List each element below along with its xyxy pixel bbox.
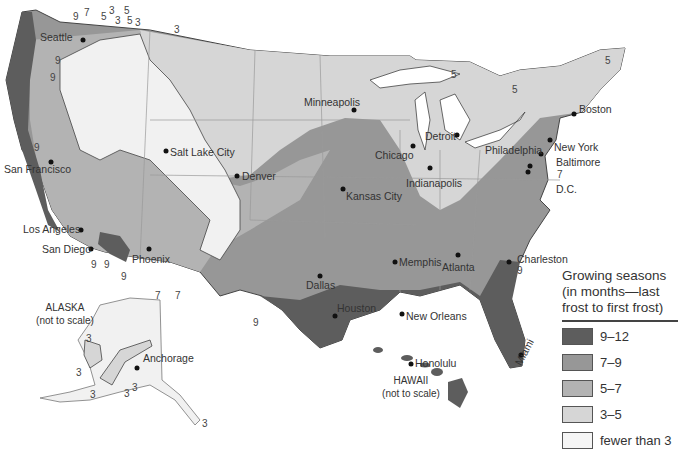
city-label-chicago: Chicago (375, 150, 414, 161)
legend-label: 5–7 (600, 381, 622, 396)
contour-label: 7 (557, 170, 563, 180)
alaska-title: ALASKA (not to scale) (30, 302, 100, 327)
contour-label: 9 (253, 318, 259, 328)
city-label-indianapolis: Indianapolis (406, 178, 462, 189)
contour-label: 9 (517, 266, 523, 276)
contour-label: 3 (135, 18, 141, 28)
contour-label: 7 (84, 8, 90, 18)
city-label-phoenix: Phoenix (132, 254, 170, 265)
contour-label: 3 (115, 16, 121, 26)
contour-label: 5 (101, 12, 107, 22)
contour-label: 5 (512, 85, 518, 95)
hawaii-note-text: (not to scale) (376, 388, 446, 401)
city-label-detroit: Detroit (425, 131, 456, 142)
contour-label: 3 (124, 389, 130, 399)
alaska-note-text: (not to scale) (30, 315, 100, 328)
contour-label: 5 (127, 16, 133, 26)
contour-label: 5 (605, 56, 611, 66)
contour-label: 9 (104, 260, 110, 270)
city-label-seattle: Seattle (40, 32, 73, 43)
contour-label: 9 (121, 272, 127, 282)
contour-label: 3 (132, 383, 138, 393)
city-label-dallas: Dallas (306, 280, 335, 291)
contour-label: 3 (174, 25, 180, 35)
city-label-new-orleans: New Orleans (406, 311, 467, 322)
contour-label: 3 (109, 6, 115, 16)
city-label-san-diego: San Diego (42, 244, 91, 255)
legend-label: 3–5 (600, 407, 622, 422)
city-label-honolulu: Honolulu (415, 358, 456, 369)
city-label-charleston: Charleston (517, 254, 568, 265)
city-label-kansas-city: Kansas City (346, 191, 402, 202)
legend-label: 7–9 (600, 355, 622, 370)
city-label-philadelphia: Philadelphia (485, 145, 542, 156)
contour-label: 7 (175, 291, 181, 301)
city-label-los-angeles: Los Angeles (23, 224, 80, 235)
city-label-san-francisco: San Francisco (4, 164, 44, 176)
city-label-dc: D.C. (556, 184, 577, 195)
legend-item-9-12: 9–12 (562, 325, 680, 348)
contour-label: 9 (50, 73, 56, 83)
legend-swatch (562, 328, 593, 345)
city-label-boston: Boston (579, 104, 612, 115)
city-label-atlanta: Atlanta (442, 262, 475, 273)
city-label-new-york: New York (554, 142, 598, 153)
legend-swatch (562, 380, 593, 397)
hawaii-title-text: HAWAII (376, 375, 446, 388)
legend-item-3-5: 3–5 (562, 403, 680, 426)
alaska-title-text: ALASKA (30, 302, 100, 315)
contour-label: 3 (86, 334, 92, 344)
legend-item-fewer-than-3: fewer than 3 (562, 429, 680, 452)
contour-label: 3 (76, 368, 82, 378)
contour-label: 5 (451, 70, 457, 80)
city-label-anchorage: Anchorage (143, 353, 194, 364)
legend-item-5-7: 5–7 (562, 377, 680, 400)
legend-swatch (562, 354, 593, 371)
contour-label: 9 (91, 260, 97, 270)
contour-label: 9 (73, 12, 79, 22)
contour-label: 9 (34, 143, 40, 153)
city-label-minneapolis: Minneapolis (304, 97, 360, 108)
city-label-memphis: Memphis (399, 257, 442, 268)
contour-label: 3 (90, 390, 96, 400)
contour-label: 9 (55, 56, 61, 66)
legend-item-7-9: 7–9 (562, 351, 680, 374)
legend-swatch (562, 432, 593, 449)
city-label-salt-lake-city: Salt Lake City (170, 147, 235, 158)
contour-label: 7 (155, 291, 161, 301)
legend: Growing seasons (in months—last frost to… (562, 268, 680, 452)
legend-swatch (562, 406, 593, 423)
contour-label: 3 (202, 419, 208, 429)
legend-label: 9–12 (600, 329, 629, 344)
city-label-houston: Houston (337, 303, 376, 314)
legend-label: fewer than 3 (600, 433, 672, 448)
legend-title: Growing seasons (in months—last frost to… (562, 268, 678, 322)
city-label-denver: Denver (242, 171, 276, 182)
city-label-baltimore: Baltimore (556, 157, 600, 168)
hawaii-title: HAWAII (not to scale) (376, 375, 446, 400)
